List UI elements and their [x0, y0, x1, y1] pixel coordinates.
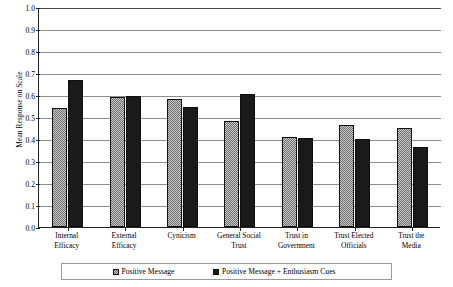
x-axis-label-line: Trust in [269, 231, 324, 241]
bar-groups [39, 7, 441, 227]
bar [183, 107, 198, 227]
x-axis-label-line: External [96, 231, 151, 241]
x-axis-label: InternalEfficacy [38, 231, 95, 250]
x-axis-label-line: Government [269, 241, 324, 251]
x-axis-label: Cynicism [153, 231, 210, 250]
y-axis-title: Mean Response on Scale [15, 50, 24, 170]
y-axis-tick-label: 0.1 [26, 202, 36, 211]
x-axis-label-line: Trust [211, 241, 266, 251]
bar [240, 94, 255, 227]
x-axis-label: Trust ElectedOfficials [325, 231, 382, 250]
y-axis-tick-label: 0.7 [26, 70, 36, 79]
bar-pair [326, 7, 383, 227]
bar-group [96, 7, 153, 227]
bar-pair [154, 7, 211, 227]
x-axis-label: ExternalEfficacy [95, 231, 152, 250]
legend-swatch-icon [213, 269, 219, 275]
x-axis-label: General SocialTrust [210, 231, 267, 250]
bar [68, 80, 83, 227]
bar-group [154, 7, 211, 227]
y-axis-tick-label: 0.3 [26, 158, 36, 167]
chart-legend: Positive Message Positive Message + Enth… [61, 263, 392, 280]
y-axis-tick-label: 0.6 [26, 92, 36, 101]
x-axis-label-line: Cynicism [154, 231, 209, 241]
x-axis-label-line: Internal [39, 231, 94, 241]
legend-swatch-icon [113, 269, 119, 275]
bar [397, 128, 412, 227]
x-axis-label-line: General Social [211, 231, 266, 241]
chart-figure: Mean Response on Scale 1.00.90.80.70.60.… [0, 0, 453, 287]
bar [339, 125, 354, 227]
bar-group [39, 7, 96, 227]
legend-entry-positive-message-enthusiasm-cues: Positive Message + Enthusiasm Cues [213, 267, 335, 276]
bar [413, 147, 428, 227]
legend-label: Positive Message + Enthusiasm Cues [222, 267, 336, 276]
y-axis-tick-label: 0.2 [26, 180, 36, 189]
y-axis-tick-label: 0.0 [26, 224, 36, 233]
bar [167, 99, 182, 227]
plot-area: 1.00.90.80.70.60.50.40.30.20.10.0 [38, 8, 440, 228]
bar-group [384, 7, 441, 227]
bar [126, 96, 141, 227]
x-axis-label-line: Efficacy [39, 241, 94, 251]
bar-pair [96, 7, 153, 227]
x-axis-label-line: Trust the [384, 231, 439, 241]
legend-label: Positive Message [122, 267, 175, 276]
y-axis-tick-label: 0.8 [26, 48, 36, 57]
bar [224, 121, 239, 227]
bar [52, 108, 67, 227]
y-axis-tick-label: 0.5 [26, 114, 36, 123]
bar-group [211, 7, 268, 227]
bar-group [269, 7, 326, 227]
x-axis-label-line: Media [384, 241, 439, 251]
x-axis-label: Trust theMedia [383, 231, 440, 250]
x-axis-label-line: Officials [326, 241, 381, 251]
bar-pair [269, 7, 326, 227]
bar-pair [39, 7, 96, 227]
legend-entry-positive-message: Positive Message [113, 267, 174, 276]
y-axis-tick-label: 0.9 [26, 26, 36, 35]
bar-pair [211, 7, 268, 227]
x-axis-labels: InternalEfficacyExternalEfficacyCynicism… [38, 231, 440, 250]
y-axis-tick-label: 0.4 [26, 136, 36, 145]
x-axis-label: Trust inGovernment [268, 231, 325, 250]
x-axis-label-line: Trust Elected [326, 231, 381, 241]
bar [298, 138, 313, 227]
bar [110, 97, 125, 227]
bar-pair [384, 7, 441, 227]
bar [282, 137, 297, 227]
x-axis-label-line: Efficacy [96, 241, 151, 251]
y-axis-tick-mark [36, 228, 40, 229]
bar [355, 139, 370, 227]
y-axis-tick-label: 1.0 [26, 4, 36, 13]
bar-group [326, 7, 383, 227]
